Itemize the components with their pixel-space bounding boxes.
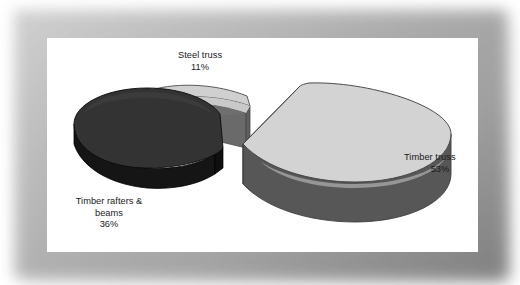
- pie-label-timber-rafters-beams-name-line1: Timber rafters &: [45, 196, 173, 208]
- pie-label-timber-rafters-beams-value: 36%: [45, 219, 173, 231]
- pie-label-timber-truss-name: Timber truss: [404, 152, 508, 164]
- pie-chart-figure: Steel truss 11% Timber truss 53% Timber …: [0, 0, 520, 285]
- pie-label-timber-truss-value: 53%: [404, 164, 476, 176]
- pie-label-steel-truss: Steel truss 11%: [150, 50, 250, 73]
- pie-label-timber-rafters-beams: Timber rafters & beams 36%: [45, 196, 173, 231]
- pie-label-steel-truss-value: 11%: [150, 62, 250, 74]
- pie-slice-timber-rafters-beams[interactable]: [74, 88, 223, 188]
- pie-label-timber-truss: Timber truss 53%: [404, 152, 508, 175]
- pie-label-timber-rafters-beams-name-line2: beams: [45, 208, 173, 220]
- pie-label-steel-truss-name: Steel truss: [150, 50, 250, 62]
